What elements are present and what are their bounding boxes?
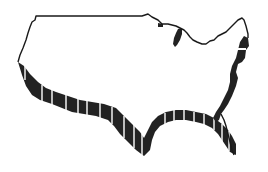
great-lakes <box>173 28 182 47</box>
map-canvas: Contiguous United States outline <box>0 0 268 172</box>
us-map-illustration <box>0 0 268 172</box>
extrusion-stripes <box>25 64 229 155</box>
east-coast-highlight <box>238 48 246 50</box>
extrusion-west-south <box>18 62 236 156</box>
east-coast <box>213 36 249 122</box>
extrusion-band <box>18 62 236 156</box>
